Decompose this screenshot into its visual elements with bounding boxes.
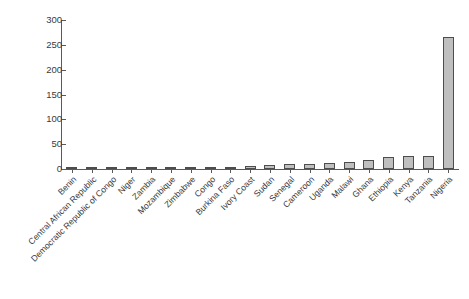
bar-chart: 050100150200250300 BeninCentral African … <box>0 0 469 299</box>
x-axis-labels: BeninCentral African RepublicDemocratic … <box>0 0 469 299</box>
